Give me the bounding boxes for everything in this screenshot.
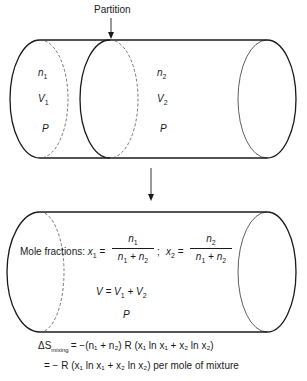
- subscript: 1: [45, 99, 49, 106]
- x2-numerator: n2: [190, 234, 232, 248]
- x1-fraction: n1 n1 + n2: [112, 234, 154, 264]
- right-chamber-volume: V2: [157, 94, 168, 106]
- partition-back-arc: [110, 40, 138, 158]
- subscript: 1: [93, 252, 97, 259]
- bottom-cylinder: [7, 212, 296, 332]
- right-chamber-moles: n2: [157, 68, 166, 80]
- partition-arrow: [108, 18, 114, 39]
- subscript: 1: [44, 73, 48, 80]
- entropy-rhs: = −(n₁ + n₂) R (x₁ ln x₁ + x₂ ln x₂): [71, 340, 214, 351]
- separator: ;: [157, 247, 160, 257]
- subscript: 2: [164, 99, 168, 106]
- x2-lhs: x2 =: [166, 247, 184, 259]
- x2-denominator: n1 + n2: [190, 249, 232, 264]
- bottom-right-end-front-arc: [267, 212, 296, 332]
- bottom-right-end-back-arc: [238, 212, 267, 332]
- left-end-front-arc: [10, 40, 40, 158]
- right-chamber-pressure: P: [160, 124, 167, 134]
- entropy-equation-line1: ΔSmixing= −(n₁ + n₂) R (x₁ ln x₁ + x₂ ln…: [38, 341, 214, 353]
- entropy-equation-line2: = − R (x₁ ln x₁ + x₂ ln x₂) per mole of …: [44, 361, 239, 371]
- right-end-back-arc: [238, 40, 267, 158]
- transition-arrow: [148, 168, 154, 201]
- mixture-pressure: P: [123, 310, 130, 320]
- top-cylinder: [10, 40, 296, 158]
- subscript: 2: [171, 252, 175, 259]
- left-chamber-moles: n1: [38, 68, 47, 80]
- volume-equation: V = V1 + V2: [96, 287, 147, 299]
- x1-numerator: n1: [112, 234, 154, 248]
- partition-front-arc: [80, 40, 110, 158]
- subscript: 2: [163, 73, 167, 80]
- mole-fractions-label: Mole fractions: x1 =: [20, 247, 105, 259]
- mixing-subscript: mixing: [51, 347, 68, 353]
- left-chamber-pressure: P: [42, 124, 49, 134]
- left-chamber-volume: V1: [38, 94, 49, 106]
- delta-s-symbol: ΔS: [38, 340, 51, 351]
- diagram-canvas: [0, 0, 307, 381]
- mole-fractions-text: Mole fractions:: [20, 246, 85, 257]
- volume-symbol: V: [38, 93, 45, 104]
- volume-symbol: V: [157, 93, 164, 104]
- bottom-left-end-front-arc: [7, 212, 40, 332]
- right-end-front-arc: [267, 40, 296, 158]
- bottom-left-end-back-arc: [40, 212, 64, 332]
- partition-label: Partition: [94, 5, 131, 15]
- x1-denominator: n1 + n2: [112, 249, 154, 264]
- x2-fraction: n2 n1 + n2: [190, 234, 232, 264]
